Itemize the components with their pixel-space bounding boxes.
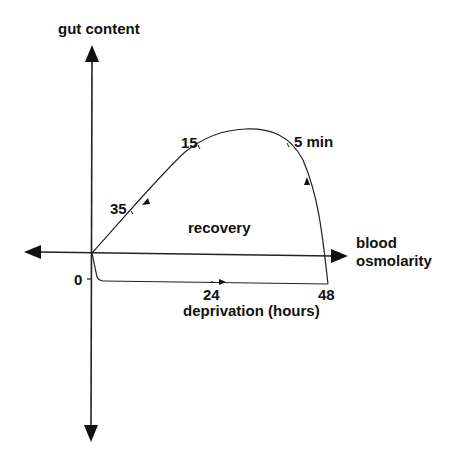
region-label-recovery: recovery	[188, 219, 251, 236]
y-axis-arrow-down-icon	[84, 425, 98, 442]
y-axis	[91, 62, 92, 425]
x-axis-arrow-right-icon	[331, 249, 348, 263]
x-axis-label-line1: blood	[356, 234, 397, 251]
tick-label-48: 48	[318, 286, 335, 303]
tick-label-24: 24	[203, 286, 220, 303]
y-axis-label: gut content	[58, 20, 140, 37]
time-label-5min: 5 min	[294, 133, 333, 150]
deprivation-path	[92, 253, 328, 284]
recovery-curve	[92, 129, 328, 284]
x-axis-label-line2: osmolarity	[356, 252, 432, 269]
x-axis	[40, 252, 332, 256]
deprivation-arrow-icon	[219, 279, 226, 285]
time-label-15: 15	[181, 134, 198, 151]
time-label-35: 35	[110, 200, 127, 217]
tick-label-0: 0	[74, 271, 82, 288]
recovery-arrow-down-icon	[142, 198, 150, 205]
deprivation-axis-label: deprivation (hours)	[183, 302, 320, 319]
recovery-arrow-up-icon	[304, 177, 310, 185]
y-axis-arrow-up-icon	[85, 45, 99, 62]
x-axis-arrow-left-icon	[24, 245, 41, 259]
